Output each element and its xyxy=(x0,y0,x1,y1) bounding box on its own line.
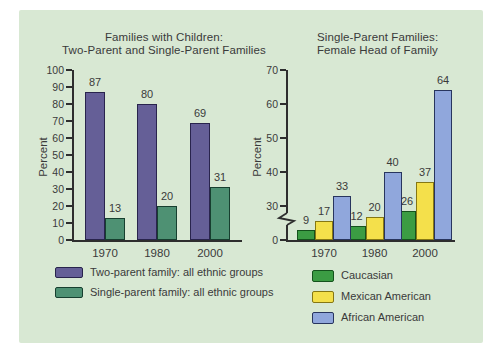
y-axis-line xyxy=(286,70,288,213)
bar-value-label: 33 xyxy=(327,180,357,193)
legend-swatch xyxy=(55,287,83,298)
y-tick xyxy=(66,239,72,241)
legend-item-label: Single-parent family: all ethnic groups xyxy=(90,286,273,299)
bar-value-label: 13 xyxy=(100,202,130,215)
y-tick xyxy=(280,205,286,207)
x-axis-line xyxy=(72,240,242,242)
bar-value-label: 31 xyxy=(205,171,235,184)
y-tick xyxy=(280,69,286,71)
bar-mexican-american-1970 xyxy=(315,221,333,240)
bar-mexican-american-1980 xyxy=(366,217,384,240)
legend-swatch xyxy=(312,291,334,303)
y-tick-label: 100 xyxy=(34,64,64,76)
bar-value-label: 64 xyxy=(428,74,458,87)
y-tick xyxy=(66,69,72,71)
y-tick-label: 30 xyxy=(34,183,64,195)
y-tick-label: 60 xyxy=(34,132,64,144)
y-tick-label: 20 xyxy=(34,200,64,212)
y-tick xyxy=(280,239,286,241)
bar-african-american-2000 xyxy=(434,90,452,240)
y-tick xyxy=(66,137,72,139)
bar-value-label: 20 xyxy=(152,190,182,203)
y-tick-label: 50 xyxy=(248,132,278,144)
y-tick xyxy=(66,103,72,105)
y-axis-line xyxy=(72,70,74,240)
x-axis-line xyxy=(286,240,455,242)
bar-mexican-american-2000 xyxy=(416,182,434,240)
bar-value-label: 80 xyxy=(132,88,162,101)
y-tick-label: 40 xyxy=(34,166,64,178)
bar-caucasian-1970 xyxy=(297,230,315,240)
bar-african-american-1980 xyxy=(384,172,402,240)
x-tick-label: 1970 xyxy=(302,247,346,260)
y-tick xyxy=(66,120,72,122)
y-tick-label: 0 xyxy=(34,234,64,246)
y-tick xyxy=(66,188,72,190)
y-tick xyxy=(280,103,286,105)
y-tick-label: 40 xyxy=(248,166,278,178)
y-tick xyxy=(66,205,72,207)
y-tick xyxy=(66,86,72,88)
y-tick-label: 90 xyxy=(34,81,64,93)
legend-item-label: African American xyxy=(341,311,424,324)
legend-swatch xyxy=(312,270,334,282)
x-tick-label: 2000 xyxy=(403,247,447,260)
y-tick-label: 10 xyxy=(34,217,64,229)
bar-value-label: 40 xyxy=(378,156,408,169)
y-tick-label: 30 xyxy=(248,200,278,212)
bar-african-american-1970 xyxy=(333,196,351,240)
x-tick-label: 2000 xyxy=(188,247,232,260)
bar-single-parent-family-all-ethnic-groups-1970 xyxy=(105,218,125,240)
y-tick-label: 60 xyxy=(248,98,278,110)
bar-single-parent-family-all-ethnic-groups-2000 xyxy=(210,187,230,240)
y-tick xyxy=(280,137,286,139)
legend-item-label: Mexican American xyxy=(341,290,431,303)
y-tick xyxy=(66,171,72,173)
legend-swatch xyxy=(312,312,334,324)
figure: Families with Children: Two-Parent and S… xyxy=(0,0,504,359)
legend-swatch xyxy=(55,267,83,278)
chart-layer: 0102030405060708090100878069132031197019… xyxy=(0,0,504,359)
y-tick-label: 50 xyxy=(34,149,64,161)
x-tick-label: 1970 xyxy=(83,247,127,260)
bar-two-parent-family-all-ethnic-groups-1980 xyxy=(137,104,157,240)
bar-value-label: 69 xyxy=(185,107,215,120)
x-tick-label: 1980 xyxy=(353,247,397,260)
y-tick-label: 80 xyxy=(34,98,64,110)
y-tick xyxy=(66,154,72,156)
x-tick-label: 1980 xyxy=(135,247,179,260)
y-tick xyxy=(280,171,286,173)
y-tick-label: 70 xyxy=(248,64,278,76)
y-tick-label: 0 xyxy=(248,234,278,246)
legend-item-label: Two-parent family: all ethnic groups xyxy=(90,266,263,279)
bar-value-label: 87 xyxy=(80,76,110,89)
legend-item-label: Caucasian xyxy=(341,269,393,282)
y-tick-label: 70 xyxy=(34,115,64,127)
bar-single-parent-family-all-ethnic-groups-1980 xyxy=(157,206,177,240)
y-tick xyxy=(66,222,72,224)
bar-two-parent-family-all-ethnic-groups-1970 xyxy=(85,92,105,240)
